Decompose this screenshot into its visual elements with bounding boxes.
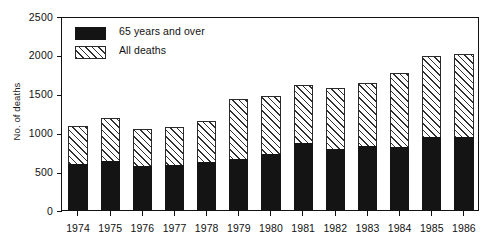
bar-segment-65-and-over-1981	[294, 143, 313, 210]
bar-1984	[390, 73, 409, 210]
bar-1985	[422, 56, 441, 210]
x-tick-mark	[302, 210, 303, 216]
y-tick-label: 1500	[7, 88, 53, 100]
bar-segment-65-and-over-1974	[68, 164, 87, 210]
x-tick-mark	[463, 210, 464, 216]
legend-label-65-years-and-over: 65 years and over	[119, 25, 205, 37]
x-tick-mark	[174, 210, 175, 216]
x-tick-mark	[77, 210, 78, 216]
bar-segment-65-and-over-1982	[326, 149, 345, 210]
bar-1974	[68, 126, 87, 210]
legend-label-all-deaths: All deaths	[119, 44, 166, 56]
bar-segment-65-and-over-1985	[422, 137, 441, 210]
y-tick-mark	[57, 173, 62, 174]
legend-swatch-solid	[75, 27, 106, 40]
x-tick-mark	[399, 210, 400, 216]
bar-1977	[165, 127, 184, 210]
bar-1982	[326, 88, 345, 210]
bar-1983	[358, 83, 377, 210]
legend-swatch-hatch	[75, 46, 106, 59]
bar-segment-65-and-over-1978	[197, 162, 216, 210]
bar-1976	[133, 129, 152, 210]
y-tick-mark	[57, 134, 62, 135]
bar-1980	[261, 96, 280, 210]
bar-segment-65-and-over-1976	[133, 166, 152, 210]
y-tick-mark	[57, 56, 62, 57]
y-tick-mark	[57, 211, 62, 212]
y-tick-label: 0	[7, 205, 53, 217]
bar-segment-65-and-over-1977	[165, 165, 184, 210]
bar-1981	[294, 85, 313, 210]
bar-segment-65-and-over-1975	[101, 161, 120, 210]
legend-item-65-years-and-over: 65 years and over	[75, 25, 285, 44]
bar-segment-65-and-over-1983	[358, 146, 377, 210]
bar-segment-65-and-over-1984	[390, 147, 409, 210]
x-tick-mark	[335, 210, 336, 216]
bar-segment-65-and-over-1986	[454, 137, 473, 210]
y-tick-mark	[57, 95, 62, 96]
bar-1979	[229, 99, 248, 210]
bar-1986	[454, 54, 473, 210]
bar-segment-65-and-over-1979	[229, 159, 248, 210]
legend-item-all-deaths: All deaths	[75, 44, 285, 63]
x-tick-mark	[206, 210, 207, 216]
x-tick-mark	[431, 210, 432, 216]
x-tick-mark	[238, 210, 239, 216]
y-tick-label: 2000	[7, 49, 53, 61]
y-tick-mark	[57, 17, 62, 18]
x-tick-mark	[110, 210, 111, 216]
y-tick-label: 2500	[7, 11, 53, 23]
bar-1975	[101, 118, 120, 210]
x-tick-label: 1986	[439, 222, 489, 234]
x-tick-mark	[142, 210, 143, 216]
y-tick-label: 1000	[7, 127, 53, 139]
y-tick-label: 500	[7, 166, 53, 178]
chart-legend: 65 years and over All deaths	[75, 25, 285, 63]
bar-1978	[197, 121, 216, 210]
chart-figure: No. of deaths 05001000150020002500 19741…	[0, 0, 495, 252]
y-axis-label: No. of deaths	[11, 52, 22, 172]
bar-segment-65-and-over-1980	[261, 154, 280, 210]
x-tick-mark	[270, 210, 271, 216]
x-tick-mark	[367, 210, 368, 216]
